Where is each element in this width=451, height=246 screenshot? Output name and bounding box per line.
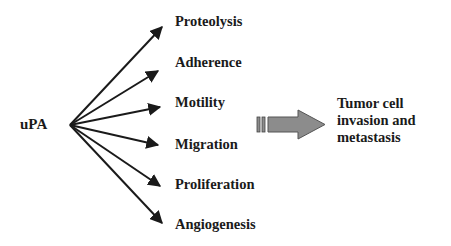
effect-label-motility: Motility	[175, 95, 225, 110]
outcome-line-1: Tumor cell	[337, 95, 416, 112]
outcome-line-2: invasion and	[337, 112, 416, 129]
outcome-line-3: metastasis	[337, 129, 416, 146]
effect-label-proteolysis: Proteolysis	[175, 14, 242, 29]
arrow-to-angiogenesis	[70, 125, 162, 223]
effect-label-proliferation: Proliferation	[175, 177, 254, 192]
branch-arrows	[70, 27, 162, 223]
effect-label-migration: Migration	[175, 137, 238, 152]
source-label-upa: uPA	[20, 117, 47, 132]
block-arrow-icon	[257, 110, 325, 139]
effect-label-angiogenesis: Angiogenesis	[175, 217, 256, 232]
arrow-to-proliferation	[70, 125, 160, 186]
effect-label-adherence: Adherence	[175, 55, 242, 70]
outcome-label: Tumor cell invasion and metastasis	[337, 95, 416, 146]
